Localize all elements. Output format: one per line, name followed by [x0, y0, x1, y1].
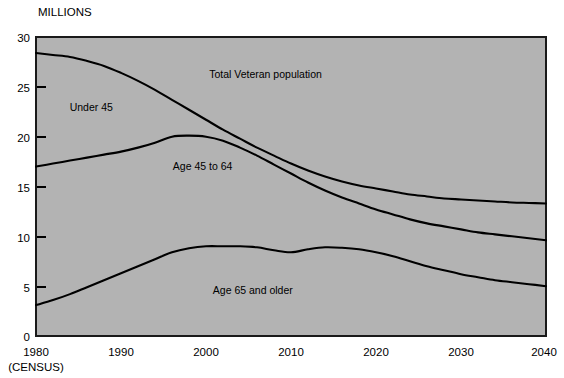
y-tick-label-0: 0 — [24, 331, 30, 343]
x-tick-label-1990: 1990 — [108, 346, 134, 358]
y-tick-label-10: 10 — [17, 232, 30, 244]
y-tick-label-25: 25 — [17, 82, 30, 94]
y-tick-label-30: 30 — [17, 32, 30, 44]
x-tick-label-2040: 2040 — [531, 346, 557, 358]
y-axis-title: MILLIONS — [38, 6, 92, 18]
annotation-under-45: Under 45 — [70, 101, 113, 113]
annotation-age-45-to-64: Age 45 to 64 — [173, 160, 233, 172]
x-tick-label-2030: 2030 — [448, 346, 474, 358]
x-tick-label-2000: 2000 — [193, 346, 219, 358]
y-tick-label-15: 15 — [17, 182, 30, 194]
y-tick-label-5: 5 — [24, 282, 30, 294]
chart-svg: MILLIONS 30 25 20 15 10 5 0 1980 1990 20… — [0, 0, 564, 378]
veteran-population-chart: MILLIONS 30 25 20 15 10 5 0 1980 1990 20… — [0, 0, 564, 378]
x-axis-census-note: (CENSUS) — [8, 361, 64, 373]
x-tick-label-2010: 2010 — [278, 346, 304, 358]
annotation-total-veteran-population: Total Veteran population — [209, 68, 322, 80]
x-tick-label-2020: 2020 — [363, 346, 389, 358]
y-tick-label-20: 20 — [17, 132, 30, 144]
annotation-age-65-and-older: Age 65 and older — [213, 284, 293, 296]
x-tick-label-1980: 1980 — [23, 346, 49, 358]
